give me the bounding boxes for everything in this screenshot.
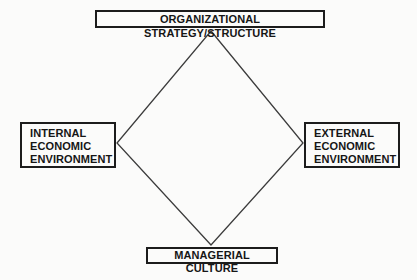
node-organizational-strategy-structure: ORGANIZATIONAL STRATEGY/STRUCTURE <box>95 10 325 28</box>
node-internal-economic-environment: INTERNAL ECONOMIC ENVIRONMENT <box>20 122 116 168</box>
node-internal-line-3: ENVIRONMENT <box>30 153 110 166</box>
node-external-economic-environment: EXTERNAL ECONOMIC ENVIRONMENT <box>304 122 400 168</box>
node-external-line-1: EXTERNAL <box>314 127 394 140</box>
node-organizational-strategy-structure-label: ORGANIZATIONAL STRATEGY/STRUCTURE <box>144 13 276 39</box>
node-internal-line-2: ECONOMIC <box>30 140 110 153</box>
node-managerial-culture: MANAGERIAL CULTURE <box>146 247 278 264</box>
diagram-canvas: ORGANIZATIONAL STRATEGY/STRUCTURE INTERN… <box>0 0 417 280</box>
node-external-line-2: ECONOMIC <box>314 140 394 153</box>
node-internal-line-1: INTERNAL <box>30 127 110 140</box>
diamond-outline <box>117 31 303 245</box>
node-external-line-3: ENVIRONMENT <box>314 153 394 166</box>
